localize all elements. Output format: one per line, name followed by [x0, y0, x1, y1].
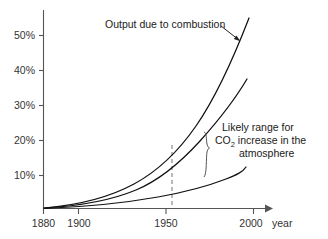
y-tick-marks	[39, 36, 44, 176]
x-tick-labels: 1880 1900 1950 2000 year	[32, 217, 293, 229]
annotation-combustion-label: Output due to combustion	[105, 18, 225, 30]
annotation-likely-range-line1: Likely range for	[222, 121, 294, 133]
x-axis-arrow-icon	[265, 205, 273, 213]
chart-svg: 50% 40% 30% 20% 10% 1880 1900 1950 2000 …	[0, 0, 328, 239]
y-tick-labels: 50% 40% 30% 20% 10%	[14, 29, 35, 181]
x-tick-label-1950: 1950	[154, 217, 178, 229]
annotation-likely-range-line3: atmosphere	[239, 147, 295, 159]
y-tick-label-20: 20%	[14, 134, 35, 146]
x-axis-title: year	[272, 217, 293, 229]
x-tick-label-2000: 2000	[239, 217, 263, 229]
data-curves	[44, 18, 249, 209]
x-tick-label-1900: 1900	[67, 217, 91, 229]
curve-co2-lower-bound	[44, 167, 246, 209]
annotation-likely-range-label: Likely range for CO2 increase in the atm…	[215, 121, 306, 159]
curve-output-due-to-combustion	[44, 18, 249, 208]
chart-figure: 50% 40% 30% 20% 10% 1880 1900 1950 2000 …	[0, 0, 328, 239]
annotation-likely-range-line2-rest: increase in the	[235, 134, 306, 146]
annotation-co2-text: CO	[215, 134, 231, 146]
y-tick-label-50: 50%	[14, 29, 35, 41]
range-brace	[204, 132, 210, 177]
x-tick-label-1880: 1880	[32, 217, 56, 229]
y-tick-label-30: 30%	[14, 99, 35, 111]
y-tick-label-10: 10%	[14, 169, 35, 181]
y-tick-label-40: 40%	[14, 64, 35, 76]
x-tick-marks	[44, 209, 254, 215]
